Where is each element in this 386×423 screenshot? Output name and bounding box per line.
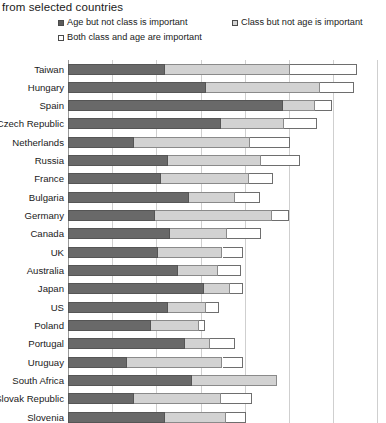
bar-segment bbox=[165, 412, 225, 423]
chart-title: from selected countries bbox=[2, 0, 123, 14]
bar-segment bbox=[68, 320, 151, 331]
bar-segment bbox=[165, 64, 290, 75]
category-label: Slovak Republic bbox=[0, 393, 64, 404]
bar-segment bbox=[290, 64, 356, 75]
legend-item-age-not-class: Age but not class is important bbox=[58, 17, 188, 27]
bar-segment bbox=[168, 155, 261, 166]
category-label: Spain bbox=[39, 100, 64, 111]
bar-segment bbox=[320, 82, 354, 93]
bar-segment bbox=[261, 155, 300, 166]
bar-segment bbox=[68, 137, 134, 148]
light-square-swatch-icon bbox=[232, 20, 238, 26]
category-label: Uruguay bbox=[28, 357, 64, 368]
bar-segment bbox=[134, 393, 221, 404]
legend-label: Both class and age are important bbox=[67, 32, 202, 42]
category-label: Poland bbox=[34, 320, 64, 331]
category-axis-labels: TaiwanHungarySpainCzech RepublicNetherla… bbox=[0, 60, 64, 423]
bar-rows bbox=[68, 60, 377, 423]
bar-segment bbox=[68, 338, 185, 349]
bar-segment bbox=[221, 393, 252, 404]
category-label: Canada bbox=[30, 228, 64, 239]
bar-segment bbox=[272, 210, 289, 221]
bar-segment bbox=[68, 100, 283, 111]
bar-segment bbox=[68, 155, 168, 166]
bar-segment bbox=[68, 64, 165, 75]
bar-segment bbox=[68, 302, 168, 313]
bar-segment bbox=[68, 247, 158, 258]
bar-segment bbox=[68, 412, 165, 423]
bar-segment bbox=[168, 302, 205, 313]
bar-segment bbox=[223, 357, 243, 368]
bar-segment bbox=[151, 320, 199, 331]
bar-segment bbox=[250, 137, 290, 148]
bar-segment bbox=[158, 247, 223, 258]
bar-segment bbox=[68, 210, 155, 221]
category-label: UK bbox=[51, 247, 64, 258]
category-label: Czech Republic bbox=[0, 118, 64, 129]
bar-segment bbox=[68, 118, 221, 129]
legend-item-class-not-age: Class but not age is important bbox=[232, 17, 363, 27]
bar-segment bbox=[210, 338, 235, 349]
category-label: Taiwan bbox=[34, 64, 64, 75]
category-label: Russia bbox=[35, 155, 64, 166]
category-label: Australia bbox=[27, 265, 64, 276]
bar-segment bbox=[68, 228, 170, 239]
bar-segment bbox=[170, 228, 227, 239]
category-label: France bbox=[34, 173, 64, 184]
category-label: Portugal bbox=[28, 338, 64, 349]
bar-segment bbox=[68, 393, 134, 404]
bar-segment bbox=[68, 265, 178, 276]
bar-segment bbox=[226, 412, 246, 423]
bar-segment bbox=[68, 375, 192, 386]
bar-segment bbox=[68, 283, 204, 294]
bar-segment bbox=[192, 375, 277, 386]
chart-legend: Age but not class is important Class but… bbox=[0, 14, 386, 46]
category-label: Germany bbox=[25, 210, 64, 221]
bar-segment bbox=[185, 338, 210, 349]
bar-segment bbox=[199, 320, 205, 331]
bar-segment bbox=[134, 137, 250, 148]
category-label: Bulgaria bbox=[29, 192, 64, 203]
bar-segment bbox=[249, 173, 274, 184]
bar-segment bbox=[68, 357, 127, 368]
dark-square-swatch-icon bbox=[58, 20, 64, 26]
category-label: South Africa bbox=[12, 375, 64, 386]
white-square-swatch-icon bbox=[58, 35, 64, 41]
bar-segment bbox=[206, 82, 320, 93]
bar-segment bbox=[284, 118, 316, 129]
bar-segment bbox=[206, 302, 220, 313]
bar-segment bbox=[221, 118, 284, 129]
bar-segment bbox=[189, 192, 235, 203]
bar-segment bbox=[227, 228, 261, 239]
category-label: Hungary bbox=[28, 82, 64, 93]
bar-segment bbox=[283, 100, 315, 111]
category-label: Japan bbox=[38, 283, 64, 294]
bar-segment bbox=[218, 265, 241, 276]
gridline bbox=[377, 60, 378, 423]
bar-segment bbox=[155, 210, 272, 221]
legend-item-both: Both class and age are important bbox=[58, 32, 202, 42]
bar-segment bbox=[230, 283, 242, 294]
category-label: Slovenia bbox=[27, 412, 64, 423]
bar-segment bbox=[223, 247, 243, 258]
bar-segment bbox=[178, 265, 218, 276]
bar-segment bbox=[235, 192, 260, 203]
legend-label: Age but not class is important bbox=[67, 17, 188, 27]
bar-segment bbox=[204, 283, 230, 294]
bar-segment bbox=[68, 173, 161, 184]
bar-segment bbox=[68, 192, 189, 203]
category-label: US bbox=[51, 302, 64, 313]
plot-area bbox=[68, 60, 377, 423]
bar-segment bbox=[161, 173, 249, 184]
bar-segment bbox=[68, 82, 206, 93]
legend-label: Class but not age is important bbox=[241, 17, 363, 27]
bar-segment bbox=[315, 100, 332, 111]
bar-segment bbox=[127, 357, 223, 368]
category-label: Netherlands bbox=[12, 137, 64, 148]
